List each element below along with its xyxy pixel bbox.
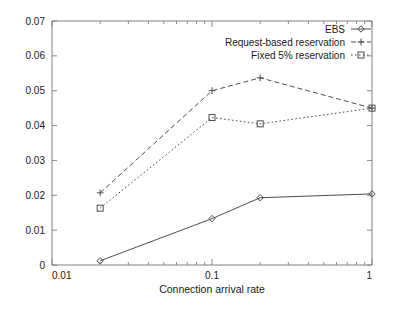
series-1	[97, 74, 376, 196]
y-tick-label: 0.06	[26, 50, 46, 61]
legend-label-1: Request-based reservation	[225, 37, 345, 48]
x-axis-label: Connection arrival rate	[159, 283, 265, 295]
y-tick-label: 0.02	[26, 190, 46, 201]
data-series-group	[97, 74, 376, 264]
series-0	[97, 191, 375, 264]
x-tick-label: 0.01	[52, 270, 72, 281]
chart-figure: 00.010.020.030.040.050.060.07 0.010.11 C…	[0, 0, 394, 311]
legend-label-0: EBS	[325, 24, 345, 35]
legend-label-2: Fixed 5% reservation	[251, 50, 345, 61]
chart-legend: EBSRequest-based reservationFixed 5% res…	[225, 24, 371, 61]
data-point-marker	[369, 105, 376, 112]
y-tick-label: 0.04	[26, 120, 46, 131]
y-tick-label: 0	[39, 260, 45, 271]
y-tick-label: 0.07	[26, 16, 46, 27]
x-tick-label: 1	[366, 270, 372, 281]
x-tick-label: 0.1	[205, 270, 219, 281]
series-line-2	[100, 108, 372, 208]
series-line-0	[100, 194, 372, 261]
y-tick-label: 0.03	[26, 155, 46, 166]
y-tick-label: 0.01	[26, 225, 46, 236]
data-point-marker	[257, 74, 264, 81]
line-chart: 00.010.020.030.040.050.060.07 0.010.11 C…	[0, 0, 394, 311]
legend-marker-1	[358, 39, 365, 46]
y-tick-label: 0.05	[26, 85, 46, 96]
